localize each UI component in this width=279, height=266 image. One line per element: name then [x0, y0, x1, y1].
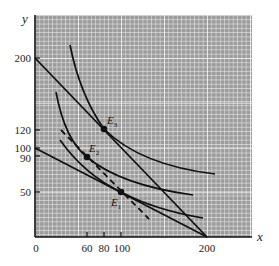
indifference-curve-chart: y x 200 120 100 90 50 0 60 80 100 200 E3…	[0, 0, 279, 266]
y-tick-50: 50	[20, 186, 32, 198]
point-e3	[101, 126, 108, 133]
y-axis-label: y	[20, 11, 28, 26]
x-tick-60: 60	[82, 242, 94, 254]
x-axis-label: x	[256, 229, 263, 244]
y-tick-120: 120	[15, 124, 32, 136]
y-tick-90: 90	[20, 152, 32, 164]
x-tick-80: 80	[99, 242, 111, 254]
point-e1	[118, 189, 125, 196]
x-tick-0: 0	[33, 242, 39, 254]
y-tick-200: 200	[15, 52, 32, 64]
x-tick-200: 200	[199, 242, 216, 254]
point-e2	[84, 154, 91, 161]
x-tick-100: 100	[114, 242, 131, 254]
